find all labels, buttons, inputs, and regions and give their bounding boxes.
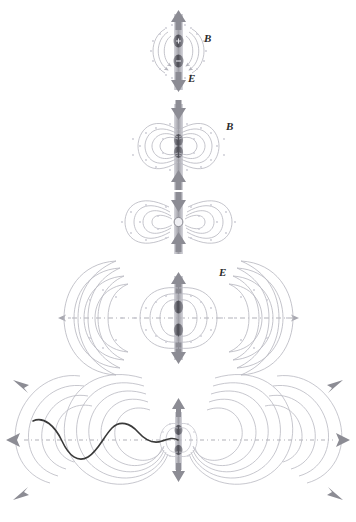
dipole-charge-negative (174, 324, 183, 337)
label-b-panel1: B (204, 33, 211, 44)
dipole-charge-positive (174, 301, 183, 314)
dipole-pinch (174, 217, 183, 226)
label-e-panel1: E (188, 73, 195, 84)
em-radiation-figure (0, 0, 356, 522)
dipole-charge-positive (175, 425, 183, 435)
e-field-bar (175, 412, 182, 470)
label-e-panel4: E (219, 267, 226, 278)
dipole-charge-negative (175, 445, 183, 455)
label-b-panel2: B (226, 121, 233, 132)
